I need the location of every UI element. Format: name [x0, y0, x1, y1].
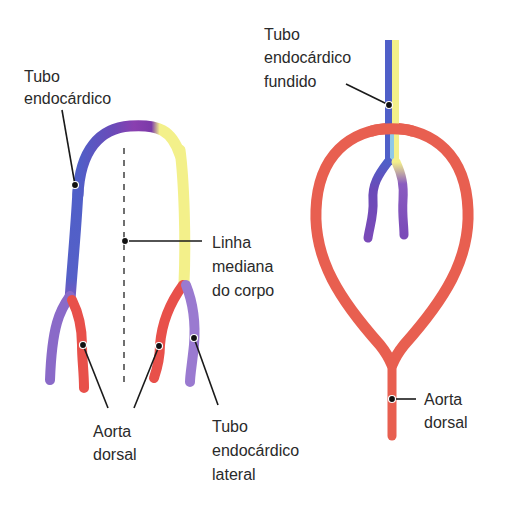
right-panel: Tubo endocárdico fundido Aorta dorsal — [264, 26, 468, 436]
fused-tube-right-branch — [396, 162, 404, 235]
leader-endocardial-tube — [62, 110, 75, 185]
label-dorsal-aorta-fused: Aorta dorsal — [424, 391, 468, 431]
endocardial-arch — [78, 126, 180, 195]
fused-tube-left-branch — [368, 162, 388, 238]
heart-tube-diagram: Tubo endocárdico Linha mediana do corpo … — [0, 0, 508, 506]
right-endocardial-tube-yellow — [180, 150, 185, 283]
right-lateral-endocardial-tube — [186, 285, 195, 382]
leader-lateral-tube — [194, 338, 218, 405]
right-dorsal-aorta — [154, 285, 183, 378]
pointer-dot — [191, 335, 198, 342]
pointer-dot — [122, 238, 129, 245]
fused-tube-lightblue — [390, 130, 394, 160]
label-endocardial-tube: Tubo endocárdico — [24, 68, 111, 107]
pointer-dot — [389, 396, 396, 403]
pointer-dot — [156, 343, 163, 350]
pointer-dot — [80, 342, 87, 349]
left-panel: Tubo endocárdico Linha mediana do corpo … — [24, 68, 304, 483]
label-dorsal-aorta-left: Aorta dorsal — [93, 423, 137, 463]
pointer-dot — [72, 182, 79, 189]
label-lateral-endocardial-tube: Tubo endocárdico lateral — [212, 418, 304, 483]
left-endocardial-tube — [70, 190, 78, 300]
pointer-dot — [386, 102, 393, 109]
left-lateral-endocardial-tube — [50, 296, 70, 380]
leader-fused-tube — [346, 84, 389, 105]
label-fused-endocardial-tube: Tubo endocárdico fundido — [264, 26, 356, 90]
aortic-arch-top — [372, 129, 412, 131]
label-body-midline: Linha mediana do corpo — [212, 234, 278, 299]
